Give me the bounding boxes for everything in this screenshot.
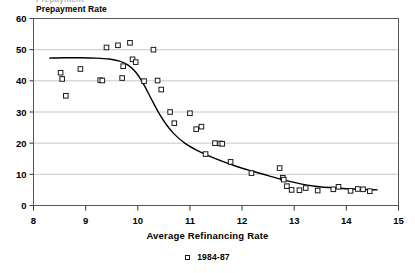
data-point-marker: [368, 189, 373, 194]
y-tick-label-50: 50: [16, 44, 27, 55]
y-axis-title: Prepayment Rate: [36, 4, 107, 14]
data-point-marker: [60, 77, 65, 82]
x-axis-title: Average Refinancing Rate: [0, 230, 415, 241]
data-point-marker: [121, 64, 126, 69]
data-point-marker: [356, 187, 361, 192]
y-tick-label-60: 60: [16, 13, 27, 24]
data-point-marker: [104, 45, 109, 50]
data-point-marker: [289, 188, 294, 193]
x-tick-label-13: 13: [289, 215, 300, 226]
gridlines-group: [34, 19, 399, 175]
data-point-marker: [100, 78, 105, 83]
y-axis-ticks-group: 0102030405060: [16, 13, 34, 211]
scatter-plot-canvas: 0102030405060 89101112131415: [0, 0, 415, 230]
data-point-marker: [285, 184, 290, 189]
open-square-marker-icon: [185, 255, 190, 260]
data-point-marker: [361, 187, 366, 192]
data-point-marker: [155, 78, 160, 83]
data-point-marker: [336, 185, 341, 190]
data-point-marker: [277, 166, 282, 171]
data-point-marker: [203, 152, 208, 157]
data-point-marker: [331, 187, 336, 192]
data-point-marker: [58, 70, 63, 75]
data-point-marker: [220, 141, 225, 146]
x-tick-label-10: 10: [132, 215, 143, 226]
data-point-marker: [315, 188, 320, 193]
x-axis-ticks-group: 89101112131415: [31, 206, 405, 226]
data-point-marker: [64, 93, 69, 98]
data-point-marker: [249, 171, 254, 176]
chart-legend: 1984-87: [0, 252, 415, 262]
data-point-marker: [172, 121, 177, 126]
data-point-marker: [188, 111, 193, 116]
legend-series-label: 1984-87: [197, 252, 230, 262]
y-tick-label-20: 20: [16, 138, 27, 149]
data-point-marker: [199, 124, 204, 129]
data-point-marker: [142, 79, 147, 84]
y-tick-label-30: 30: [16, 107, 27, 118]
data-point-marker: [116, 43, 121, 48]
y-tick-label-0: 0: [21, 200, 26, 211]
x-tick-label-11: 11: [185, 215, 196, 226]
x-tick-label-15: 15: [393, 215, 404, 226]
data-point-marker: [213, 141, 218, 146]
y-tick-label-40: 40: [16, 75, 27, 86]
x-tick-label-14: 14: [341, 215, 352, 226]
data-point-marker: [194, 127, 199, 132]
data-point-marker: [168, 110, 173, 115]
x-tick-label-8: 8: [31, 215, 36, 226]
data-points-group: [58, 41, 372, 194]
data-point-marker: [120, 76, 125, 81]
x-tick-label-12: 12: [237, 215, 248, 226]
data-point-marker: [348, 189, 353, 194]
data-point-marker: [281, 177, 286, 182]
chart-figure: Prepayment Prepayment Rate 0102030405060…: [0, 0, 415, 273]
data-point-marker: [297, 188, 302, 193]
data-point-marker: [159, 87, 164, 92]
x-tick-label-9: 9: [83, 215, 88, 226]
data-point-marker: [151, 47, 156, 52]
data-point-marker: [133, 60, 138, 65]
y-tick-label-10: 10: [16, 169, 27, 180]
data-point-marker: [128, 41, 133, 46]
data-point-marker: [78, 67, 83, 72]
data-point-marker: [303, 186, 308, 191]
data-point-marker: [228, 160, 233, 165]
